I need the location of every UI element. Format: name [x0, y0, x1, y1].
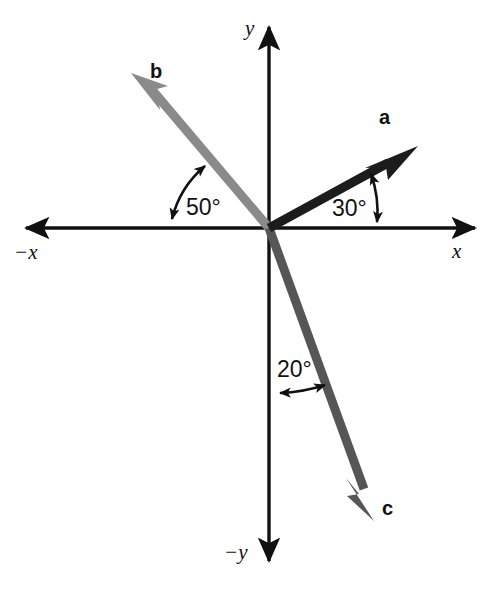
vector-label-b: b — [150, 60, 162, 82]
angle-label-30: 30° — [332, 195, 367, 221]
angle-arc-30-path — [371, 174, 378, 222]
angle-arc-30 — [371, 174, 378, 222]
vector-label-a: a — [379, 106, 391, 128]
angle-label-20: 20° — [277, 356, 312, 382]
axis-label-y-positive: y — [243, 16, 255, 40]
axis-group — [26, 27, 475, 561]
angle-label-50: 50° — [186, 194, 221, 220]
angle-arc-20-path — [280, 385, 325, 393]
vector-label-c: c — [382, 497, 393, 519]
vector-a-shaft — [269, 163, 388, 228]
vector-diagram-figure: x −x y −y b c a 30° 50° — [0, 0, 500, 589]
angle-arc-20 — [280, 385, 325, 393]
axis-label-x-positive: x — [451, 239, 462, 263]
diagram-canvas: x −x y −y b c a 30° 50° — [0, 0, 500, 589]
axis-label-x-negative: −x — [14, 240, 38, 264]
axis-label-y-negative: −y — [224, 540, 248, 564]
